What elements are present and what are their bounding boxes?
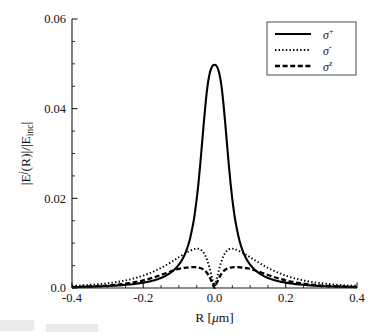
figure-container: -0.4-0.20.00.20.40.00.020.040.06 R [μm] … [0,0,375,334]
legend-box [267,22,356,75]
scan-smudge-bottom [46,324,98,332]
y-tick-label: 0.06 [44,12,66,26]
chart-canvas: -0.4-0.20.00.20.40.00.020.040.06 R [μm] … [0,0,375,334]
scan-smudge-bottom-left [0,320,34,331]
y-tick-label: 0.0 [50,281,66,295]
y-tick-label: 0.02 [44,192,66,206]
x-tick-label: 0.2 [278,291,294,305]
x-axis-title: R [μm] [195,310,234,325]
x-tick-label: -0.2 [133,291,153,305]
x-tick-label: 0.4 [349,291,365,305]
y-tick-label: 0.04 [44,102,67,116]
x-tick-label: 0.0 [207,291,223,305]
chart-legend: σ+σ-σz [267,22,356,75]
